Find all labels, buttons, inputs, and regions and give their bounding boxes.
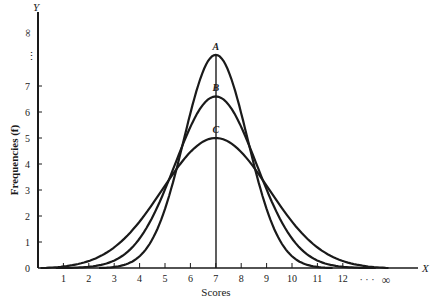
y-infinity-label: ∞: [21, 29, 33, 37]
x-tick-label: 3: [112, 273, 117, 284]
x-axis-letter: X: [421, 262, 430, 274]
x-axis-title: Scores: [201, 286, 230, 298]
y-axis-title: Frequencies (f): [8, 124, 21, 195]
x-tick-label: 1: [61, 273, 66, 284]
y-tick-label: 6: [25, 107, 30, 118]
x-ticks: 123456789101112: [61, 263, 348, 284]
y-tick-label: 2: [25, 211, 30, 222]
y-tick-label: 1: [25, 237, 30, 248]
x-tick-label: 4: [137, 273, 142, 284]
y-tick-label: 0: [25, 263, 30, 274]
x-tick-label: 2: [86, 273, 91, 284]
y-ticks: 01234567: [25, 81, 42, 274]
x-tick-label: 9: [264, 273, 269, 284]
x-ellipsis: · · ·: [360, 274, 375, 285]
y-ellipsis: ⋮: [26, 50, 37, 62]
x-tick-label: 7: [213, 273, 218, 284]
y-tick-label: 4: [25, 159, 30, 170]
curve-label-a: A: [211, 41, 219, 52]
y-axis-letter: Y: [33, 1, 41, 13]
x-infinity-label: ∞: [382, 273, 391, 287]
y-tick-label: 7: [25, 81, 30, 92]
curve-label-c: C: [212, 124, 219, 135]
curve-label-b: B: [211, 82, 219, 93]
x-tick-label: 10: [287, 273, 297, 284]
curve-c: [41, 138, 389, 268]
x-tick-label: 12: [338, 273, 348, 284]
x-tick-label: 6: [188, 273, 193, 284]
y-tick-label: 3: [25, 185, 30, 196]
x-tick-label: 11: [313, 273, 323, 284]
y-tick-label: 5: [25, 133, 30, 144]
x-tick-label: 5: [163, 273, 168, 284]
normal-curves-chart: Y X ∞ ⋮ · · · ∞ 01234567 123456789101112…: [0, 0, 439, 304]
x-tick-label: 8: [239, 273, 244, 284]
